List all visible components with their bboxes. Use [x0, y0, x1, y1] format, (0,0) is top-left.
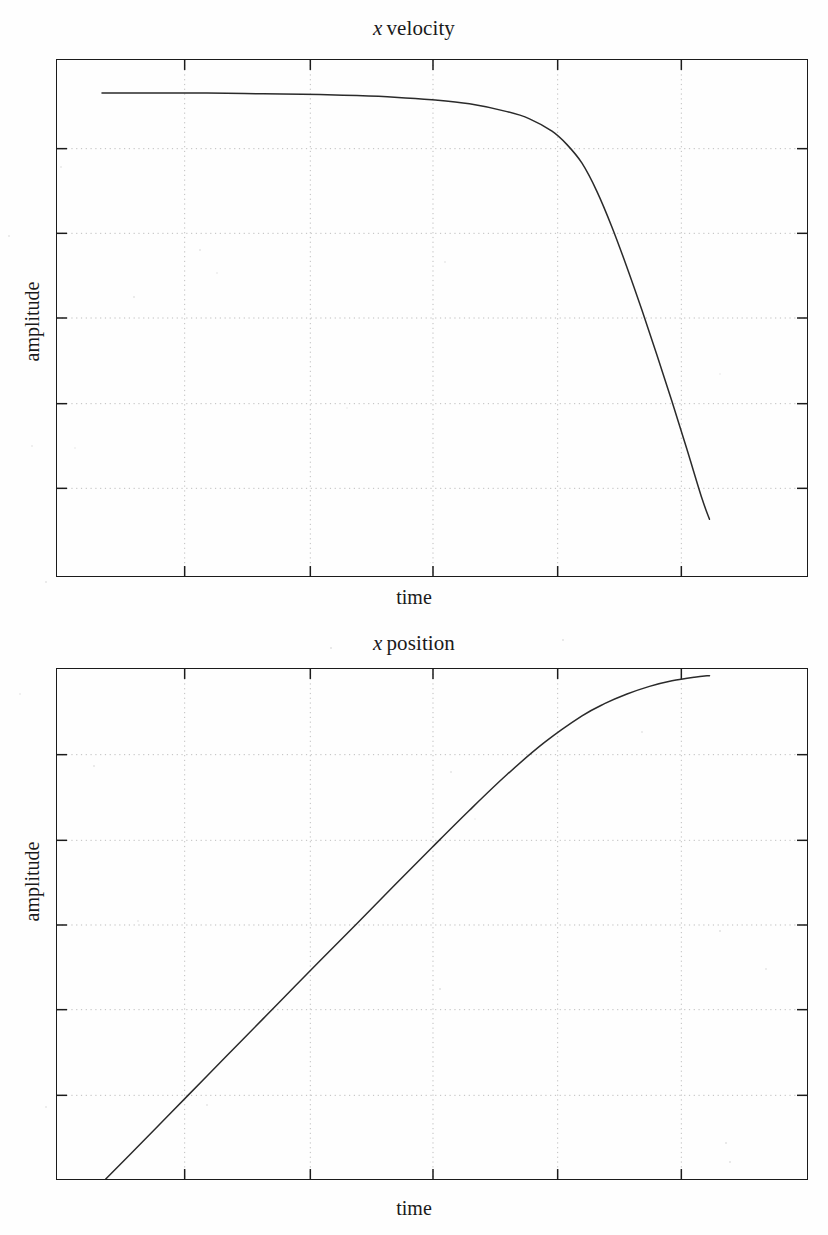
title-text-position: position	[386, 631, 454, 655]
title-symbol-x: x	[373, 16, 386, 40]
scan-speck	[474, 818, 476, 820]
scan-speck	[45, 581, 47, 583]
plot-area-velocity	[56, 59, 808, 577]
y-axis-label-position: amplitude	[21, 822, 44, 942]
chart-title-velocity: xvelocity	[0, 16, 828, 41]
gridlines-horizontal-position	[57, 755, 807, 1096]
scan-speck	[765, 968, 767, 970]
scan-speck	[19, 693, 21, 695]
scan-speck	[93, 765, 95, 767]
scan-speck	[199, 249, 201, 251]
scan-speck	[719, 930, 721, 932]
scan-speck	[641, 731, 643, 733]
scan-speck	[725, 1142, 727, 1144]
scan-speck	[133, 296, 135, 298]
figure-x-velocity: xvelocity amplitude	[0, 0, 828, 620]
figure-page: xvelocity amplitude	[0, 0, 828, 1235]
scan-speck	[719, 373, 721, 375]
plot-svg-position	[57, 669, 807, 1179]
scan-speck	[346, 407, 348, 409]
scan-speck	[206, 1104, 208, 1106]
title-text-velocity: velocity	[386, 16, 454, 40]
gridlines-vertical-position	[185, 669, 682, 1179]
scan-speck	[74, 447, 76, 449]
title-symbol-x: x	[373, 631, 386, 655]
scan-speck	[31, 445, 33, 447]
scan-speck	[216, 272, 218, 274]
plot-svg-velocity	[57, 60, 807, 576]
x-axis-label-position: time	[0, 1197, 828, 1220]
figure-x-position: xposition amplitude	[0, 620, 828, 1235]
scan-speck	[444, 261, 446, 263]
scan-speck	[729, 1161, 731, 1163]
scan-speck	[439, 988, 441, 990]
plot-area-position	[56, 668, 808, 1180]
ticks-position	[57, 669, 807, 1179]
scan-speck	[137, 920, 139, 922]
scan-speck	[450, 771, 452, 773]
scan-speck	[60, 166, 62, 168]
data-curve-position	[106, 676, 710, 1179]
scan-speck	[330, 647, 332, 649]
data-curve-velocity	[102, 93, 710, 519]
gridlines-horizontal-velocity	[57, 149, 807, 489]
scan-speck	[45, 1106, 47, 1108]
scan-speck	[8, 235, 10, 237]
y-axis-label-velocity: amplitude	[21, 262, 44, 382]
x-axis-label-velocity: time	[0, 586, 828, 609]
chart-title-position: xposition	[0, 631, 828, 656]
scan-speck	[562, 639, 564, 641]
scan-artifact-strip	[0, 1228, 828, 1235]
